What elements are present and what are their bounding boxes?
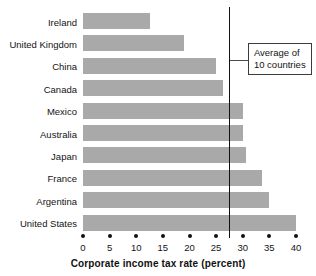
category-label-text: France xyxy=(47,173,80,184)
bar-ireland xyxy=(83,13,150,29)
category-label-text: Argentina xyxy=(36,196,80,207)
x-tick-label: 35 xyxy=(264,242,275,253)
bar-row xyxy=(83,168,296,190)
x-tick-label: 30 xyxy=(237,242,248,253)
category-label-text: Canada xyxy=(44,84,80,95)
category-label-text: Japan xyxy=(51,151,80,162)
category-label-text: Mexico xyxy=(47,106,80,117)
bar-row xyxy=(83,11,296,33)
x-tick-dot xyxy=(188,234,192,238)
category-label-mexico: Mexico xyxy=(0,101,80,123)
bar-mexico xyxy=(83,103,243,119)
bar-chart: IrelandUnited KingdomChinaCanadaMexicoAu… xyxy=(0,0,316,276)
x-tick-label: 5 xyxy=(107,242,112,253)
bar-china xyxy=(83,58,216,74)
average-callout-box: Average of 10 countries xyxy=(248,43,312,75)
bar-row xyxy=(83,145,296,167)
x-tick-label: 20 xyxy=(184,242,195,253)
x-tick-label: 10 xyxy=(131,242,142,253)
bar-japan xyxy=(83,147,246,163)
category-label-text: Australia xyxy=(40,129,80,140)
x-tick-label: 0 xyxy=(80,242,85,253)
x-tick-dot xyxy=(241,234,245,238)
x-tick-dot xyxy=(108,234,112,238)
category-label-text: China xyxy=(52,61,80,72)
x-tick-label: 15 xyxy=(158,242,169,253)
category-label-united-states: United States xyxy=(0,213,80,235)
bar-canada xyxy=(83,80,223,96)
category-label-japan: Japan xyxy=(0,145,80,167)
category-label-text: United States xyxy=(20,218,80,229)
x-tick-label: 25 xyxy=(211,242,222,253)
category-label-ireland: Ireland xyxy=(0,11,80,33)
bar-row xyxy=(83,123,296,145)
category-label-china: China xyxy=(0,56,80,78)
bar-united-kingdom xyxy=(83,35,184,51)
bar-france xyxy=(83,170,262,186)
x-tick-dot xyxy=(267,234,271,238)
category-axis-labels: IrelandUnited KingdomChinaCanadaMexicoAu… xyxy=(0,11,80,235)
bar-argentina xyxy=(83,192,269,208)
category-label-united-kingdom: United Kingdom xyxy=(0,33,80,55)
x-axis-title: Corporate income tax rate (percent) xyxy=(0,258,316,269)
x-tick-dot xyxy=(134,234,138,238)
bar-row xyxy=(83,78,296,100)
average-callout-line-1: Average of xyxy=(254,47,306,59)
x-tick-dot xyxy=(161,234,165,238)
x-axis: 0510152025303540 xyxy=(83,234,296,256)
x-tick-dot xyxy=(294,234,298,238)
category-label-australia: Australia xyxy=(0,123,80,145)
bar-row xyxy=(83,213,296,235)
bar-row xyxy=(83,101,296,123)
x-tick-dot xyxy=(214,234,218,238)
average-leader-line xyxy=(230,60,248,61)
category-label-text: United Kingdom xyxy=(9,39,80,50)
x-tick-label: 40 xyxy=(291,242,302,253)
category-label-text: Ireland xyxy=(48,17,80,28)
x-tick-dot xyxy=(81,234,85,238)
category-label-canada: Canada xyxy=(0,78,80,100)
bar-row xyxy=(83,190,296,212)
bar-australia xyxy=(83,125,243,141)
average-callout-line-2: 10 countries xyxy=(254,59,306,71)
category-label-france: France xyxy=(0,168,80,190)
category-label-argentina: Argentina xyxy=(0,190,80,212)
average-line xyxy=(229,7,231,238)
bar-united-states xyxy=(83,215,296,231)
